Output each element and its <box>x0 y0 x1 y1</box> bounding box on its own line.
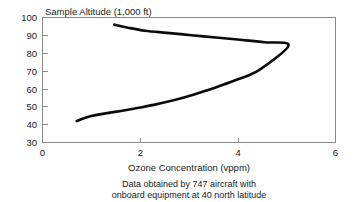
caption-line-1: Data obtained by 747 aircraft with <box>122 179 256 189</box>
y-tick-label: 100 <box>21 12 37 23</box>
caption-line-2: onboard equipment at 40 north latitude <box>112 190 267 200</box>
x-tick-label: 6 <box>333 147 338 158</box>
y-tick-label: 50 <box>26 101 37 112</box>
y-tick-label: 60 <box>26 84 37 95</box>
ozone-altitude-chart: Sample Altitude (1,000 ft) 100 90 80 70 … <box>0 0 355 202</box>
chart-canvas: Sample Altitude (1,000 ft) 100 90 80 70 … <box>0 0 355 202</box>
x-tick-label: 2 <box>138 147 143 158</box>
y-tick-label: 30 <box>26 137 37 148</box>
x-tick-label: 4 <box>236 147 241 158</box>
y-tick-label: 90 <box>26 30 37 41</box>
x-axis-title: Ozone Concentration (vppm) <box>128 162 250 173</box>
y-tick-label: 40 <box>26 119 37 130</box>
y-tick-label: 80 <box>26 48 37 59</box>
y-tick-label: 70 <box>26 66 37 77</box>
plot-title: Sample Altitude (1,000 ft) <box>45 6 152 17</box>
x-tick-label: 0 <box>40 147 45 158</box>
